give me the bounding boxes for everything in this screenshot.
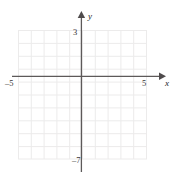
y-axis-tick-label-min: –7 <box>72 156 81 165</box>
y-axis <box>78 11 85 172</box>
y-axis-arrowhead <box>78 11 85 18</box>
coordinate-grid-figure: y x 3 –7 –5 5 <box>0 0 175 179</box>
x-axis-tick-label-max: 5 <box>142 79 146 88</box>
x-axis-tick-label-min: –5 <box>5 79 14 88</box>
y-axis-label: y <box>88 12 92 21</box>
coordinate-plane-svg <box>0 0 175 179</box>
x-axis-label: x <box>165 79 169 88</box>
y-axis-tick-label-max: 3 <box>73 28 77 37</box>
